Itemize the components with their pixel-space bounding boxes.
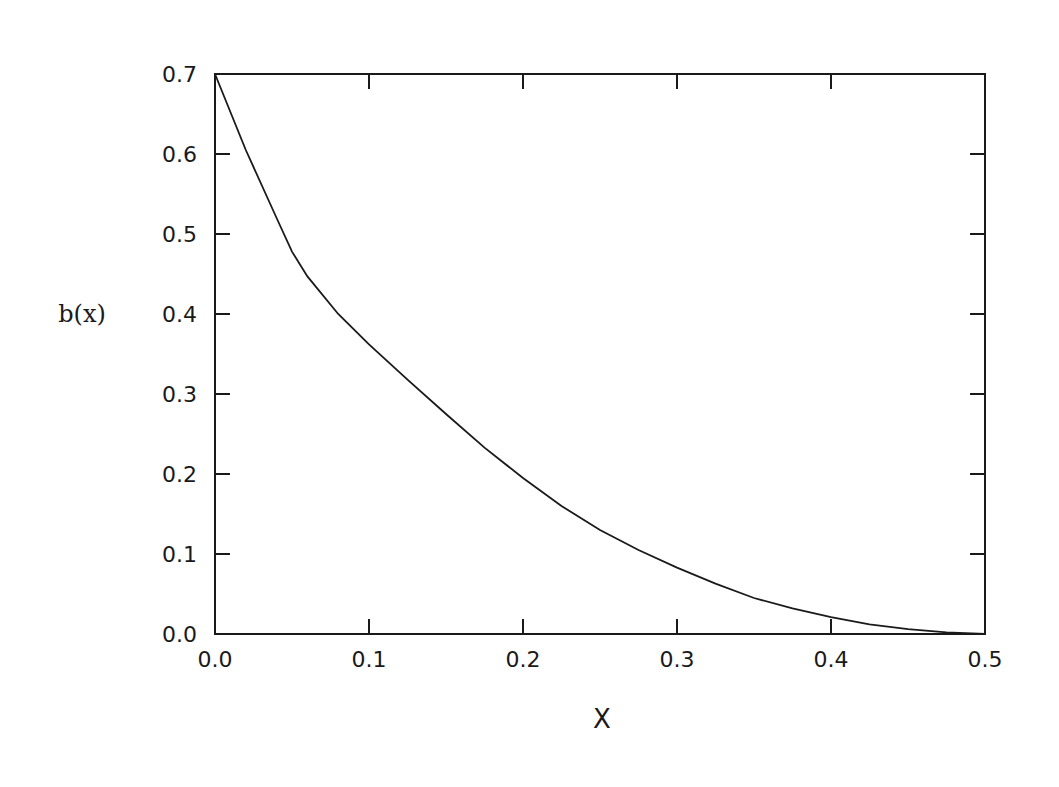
y-tick-label: 0.2 bbox=[162, 462, 197, 487]
x-tick-labels: 0.00.10.20.30.40.5 bbox=[198, 647, 1003, 672]
y-tick-label: 0.3 bbox=[162, 382, 197, 407]
x-tick-label: 0.1 bbox=[352, 647, 387, 672]
x-tick-label: 0.0 bbox=[198, 647, 233, 672]
plot-frame bbox=[215, 74, 985, 634]
axis-ticks bbox=[215, 74, 985, 634]
y-tick-label: 0.7 bbox=[162, 62, 197, 87]
y-tick-label: 0.1 bbox=[162, 542, 197, 567]
y-tick-labels: 0.00.10.20.30.40.50.60.7 bbox=[162, 62, 197, 647]
y-tick-label: 0.5 bbox=[162, 222, 197, 247]
x-tick-label: 0.5 bbox=[968, 647, 1003, 672]
y-tick-label: 0.4 bbox=[162, 302, 197, 327]
chart: 0.00.10.20.30.40.5 0.00.10.20.30.40.50.6… bbox=[0, 0, 1059, 787]
x-tick-label: 0.4 bbox=[814, 647, 849, 672]
data-line-b-of-x bbox=[215, 74, 985, 634]
x-tick-label: 0.3 bbox=[660, 647, 695, 672]
x-tick-label: 0.2 bbox=[506, 647, 541, 672]
y-tick-label: 0.0 bbox=[162, 622, 197, 647]
y-tick-label: 0.6 bbox=[162, 142, 197, 167]
y-axis-title: b(x) bbox=[58, 300, 106, 328]
plot-area: 0.00.10.20.30.40.5 0.00.10.20.30.40.50.6… bbox=[0, 0, 1059, 787]
axes-box bbox=[215, 74, 985, 634]
x-axis-title: X bbox=[593, 704, 611, 734]
